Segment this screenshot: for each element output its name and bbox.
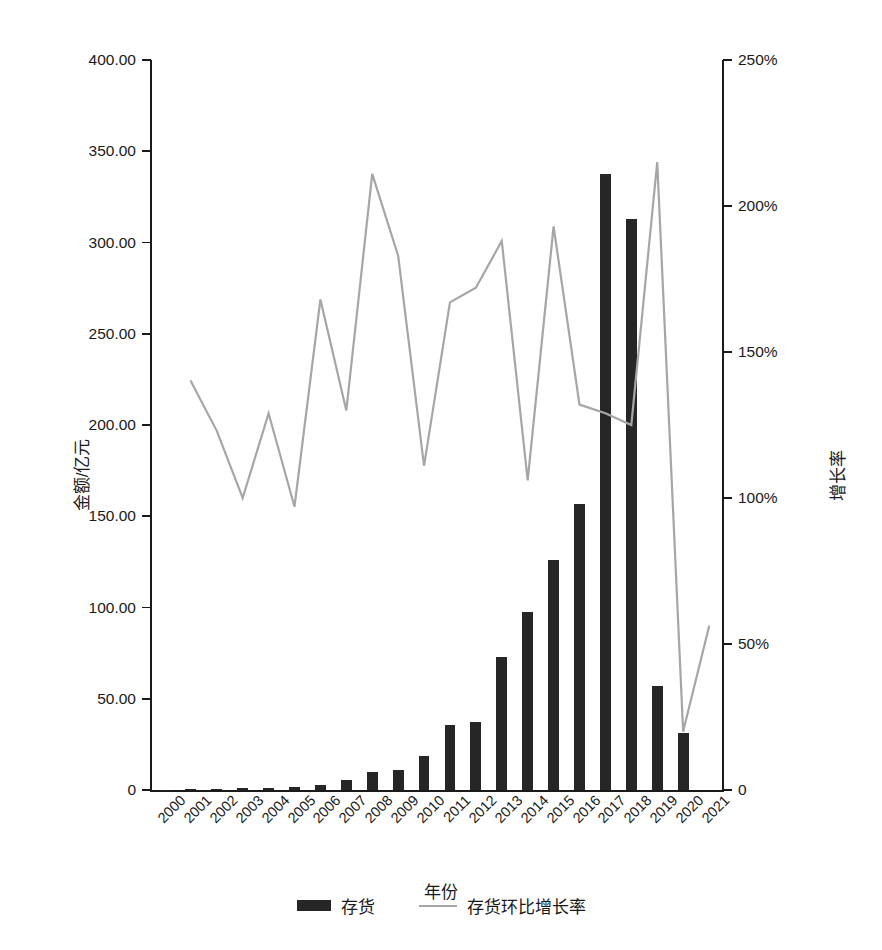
- y-axis-left-tick: [142, 242, 151, 244]
- line-series-growth-rate: [152, 60, 722, 790]
- y-axis-right-tick-label: 0: [738, 782, 747, 798]
- y-axis-left-tick-label: 150.00: [89, 509, 136, 525]
- y-axis-right-tick: [723, 351, 732, 353]
- y-axis-left-tick: [142, 789, 151, 791]
- axis-line-right: [722, 60, 724, 790]
- y-axis-left-tick: [142, 424, 151, 426]
- y-axis-left-tick-label: 0: [127, 782, 136, 798]
- y-axis-right-tick: [723, 497, 732, 499]
- plot-area: 050.00100.00150.00200.00250.00300.00350.…: [152, 60, 722, 790]
- x-axis-tick-label: 2021: [698, 792, 732, 826]
- y-axis-right-tick-label: 200%: [738, 198, 778, 214]
- x-axis-tick-label: 2018: [621, 792, 655, 826]
- x-axis-tick-label: 2020: [673, 792, 707, 826]
- legend-bar-swatch-icon: [297, 900, 331, 911]
- x-axis-tick-label: 2002: [206, 792, 240, 826]
- y-axis-left-tick: [142, 698, 151, 700]
- y-axis-left-tick-label: 350.00: [89, 144, 136, 160]
- growth-rate-polyline: [152, 60, 722, 790]
- x-axis-tick-label: 2010: [413, 792, 447, 826]
- x-axis-tick-label: 2006: [310, 792, 344, 826]
- growth-rate-line-path: [191, 162, 709, 731]
- x-axis-tick-label: 2016: [569, 792, 603, 826]
- y-axis-left-title: 金额/亿元: [68, 439, 93, 512]
- chart-legend: 存货存货环比增长率: [0, 893, 882, 918]
- y-axis-left-tick-label: 400.00: [89, 52, 136, 68]
- x-axis-tick-label: 2005: [284, 792, 318, 826]
- y-axis-right-tick-label: 250%: [738, 52, 778, 68]
- y-axis-right-tick: [723, 789, 732, 791]
- inventory-growth-chart: 金额/亿元 增长率 年份 050.00100.00150.00200.00250…: [0, 0, 882, 950]
- x-axis-tick-label: 2003: [232, 792, 266, 826]
- y-axis-left-tick: [142, 515, 151, 517]
- x-axis-tick-label: 2009: [388, 792, 422, 826]
- legend-line-swatch-icon: [419, 905, 457, 907]
- y-axis-left-tick-label: 300.00: [89, 235, 136, 251]
- y-axis-right-tick-label: 150%: [738, 344, 778, 360]
- x-axis-tick-label: 2015: [543, 792, 577, 826]
- y-axis-right-tick: [723, 643, 732, 645]
- y-axis-right-tick: [723, 205, 732, 207]
- y-axis-right-title: 增长率: [824, 450, 849, 501]
- y-axis-right-tick-label: 100%: [738, 490, 778, 506]
- y-axis-left-tick-label: 100.00: [89, 600, 136, 616]
- x-axis-tick-label: 2014: [517, 792, 551, 826]
- y-axis-left-tick: [142, 150, 151, 152]
- y-axis-right-tick: [723, 59, 732, 61]
- x-axis-tick-label: 2007: [336, 792, 370, 826]
- x-axis-tick-label: 2012: [465, 792, 499, 826]
- x-axis-tick-label: 2013: [491, 792, 525, 826]
- y-axis-right-tick-label: 50%: [738, 636, 769, 652]
- y-axis-left-tick: [142, 607, 151, 609]
- x-axis-tick-label: 2019: [647, 792, 681, 826]
- x-axis-tick-label: 2008: [362, 792, 396, 826]
- x-axis-tick-label: 2017: [595, 792, 629, 826]
- y-axis-left-tick: [142, 59, 151, 61]
- legend-item-label: 存货: [341, 893, 375, 918]
- legend-item[interactable]: 存货环比增长率: [419, 893, 586, 918]
- legend-item-label: 存货环比增长率: [467, 893, 586, 918]
- x-axis-tick-label: 2011: [440, 792, 473, 825]
- x-axis-tick-label: 2001: [180, 792, 214, 826]
- y-axis-left-tick-label: 200.00: [89, 417, 136, 433]
- x-axis-tick-labels: 2000200120022003200420052006200720082009…: [152, 792, 722, 872]
- y-axis-left-tick-label: 50.00: [97, 691, 136, 707]
- legend-item[interactable]: 存货: [297, 893, 375, 918]
- y-axis-left-tick: [142, 333, 151, 335]
- x-axis-tick-label: 2000: [154, 792, 188, 826]
- y-axis-left-tick-label: 250.00: [89, 326, 136, 342]
- x-axis-tick-label: 2004: [258, 792, 292, 826]
